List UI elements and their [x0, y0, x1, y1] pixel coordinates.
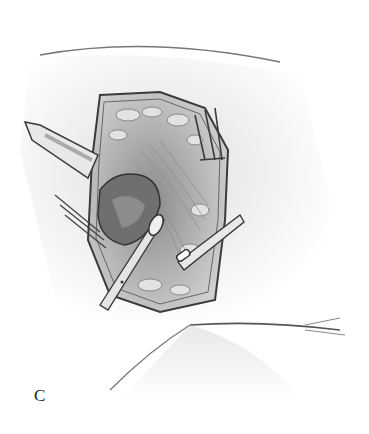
surgical-illustration: C — [0, 0, 369, 434]
incision-wound — [88, 92, 228, 312]
body-contour-lower — [110, 318, 345, 400]
panel-label: C — [34, 386, 45, 406]
illustration-drawing — [0, 0, 369, 434]
